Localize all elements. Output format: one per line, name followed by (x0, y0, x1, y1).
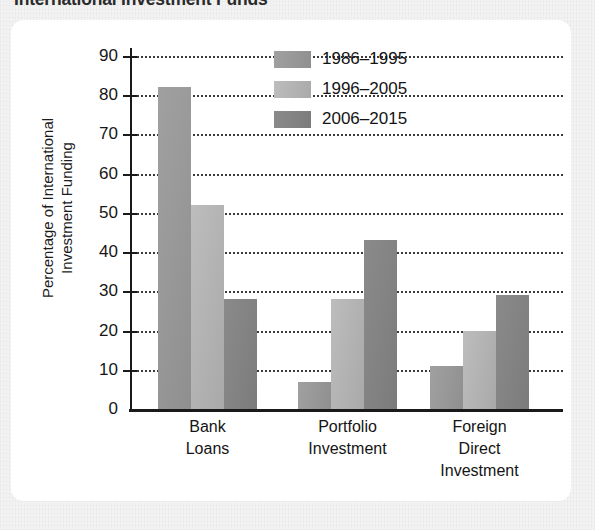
legend-swatch-1996-2005 (274, 81, 311, 98)
y-axis-tick-label: 70 (99, 124, 118, 144)
chart-card: Percentage of International Investment F… (11, 20, 571, 501)
x-axis-category-label: Bank Loans (138, 416, 278, 460)
y-axis-tick-label: 50 (99, 203, 118, 223)
y-axis-tick-label: 0 (109, 399, 118, 419)
y-axis-tick (123, 134, 137, 136)
y-axis-line (130, 48, 132, 409)
bar (191, 205, 224, 409)
y-axis-tick (123, 174, 137, 176)
y-axis-title: Percentage of International Investment F… (38, 83, 78, 333)
y-axis-tick (123, 213, 137, 215)
y-axis-tick-label: 40 (99, 242, 118, 262)
y-axis-tick (123, 252, 137, 254)
y-axis-tick (123, 56, 137, 58)
bar (298, 382, 331, 409)
y-axis-tick-label: 20 (99, 321, 118, 341)
legend-swatch-2006-2015 (274, 111, 311, 128)
bar (430, 366, 463, 409)
x-axis-category-label: Portfolio Investment (278, 416, 418, 460)
y-axis-tick-label: 80 (99, 85, 118, 105)
legend-item: 1996–2005 (274, 74, 444, 104)
gridline (130, 174, 563, 176)
bar (364, 240, 397, 409)
y-axis-tick-label: 60 (99, 164, 118, 184)
legend: 1986–1995 1996–2005 2006–2015 (274, 44, 444, 134)
bar (158, 87, 191, 409)
bar-chart: Percentage of International Investment F… (11, 20, 571, 501)
bar (331, 299, 364, 409)
y-axis-tick (123, 291, 137, 293)
y-axis-tick-label: 30 (99, 281, 118, 301)
y-axis-tick-label: 10 (99, 360, 118, 380)
bar (224, 299, 257, 409)
y-axis-tick (123, 370, 137, 372)
x-axis-category-label: Foreign Direct Investment (410, 416, 550, 482)
chart-title: International Investment Funds (14, 0, 574, 9)
legend-item: 2006–2015 (274, 104, 444, 134)
gridline (130, 134, 563, 136)
y-axis-tick (123, 95, 137, 97)
legend-item: 1986–1995 (274, 44, 444, 74)
legend-label-1996-2005: 1996–2005 (322, 79, 407, 99)
legend-label-1986-1995: 1986–1995 (322, 49, 407, 69)
legend-label-2006-2015: 2006–2015 (322, 109, 407, 129)
bar (496, 295, 529, 409)
bar (463, 331, 496, 409)
x-axis-line (129, 409, 563, 412)
y-axis-tick-label: 90 (99, 46, 118, 66)
y-axis-tick (123, 331, 137, 333)
legend-swatch-1986-1995 (274, 51, 311, 68)
